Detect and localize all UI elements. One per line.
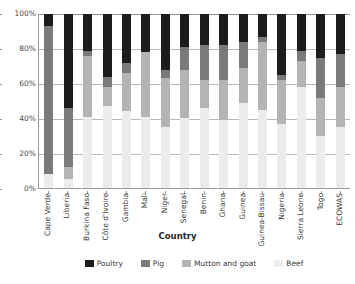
- stacked-bar[interactable]: [180, 14, 189, 188]
- bar-segment-mutton-and-goat: [258, 42, 267, 110]
- bar-segment-beef: [277, 124, 286, 188]
- bar-segment-beef: [336, 127, 345, 188]
- y-axis-tick-mark: [0, 49, 2, 50]
- legend-swatch-icon: [182, 260, 191, 267]
- bar-segment-poultry: [180, 14, 189, 47]
- bar-segment-poultry: [297, 14, 306, 51]
- legend-item[interactable]: Poultry: [85, 259, 123, 268]
- x-axis-tick-label: Benin: [200, 193, 208, 214]
- legend-item[interactable]: Mutton and goat: [182, 259, 256, 268]
- bar-segment-pig: [64, 108, 73, 167]
- legend-label: Pig: [153, 259, 164, 268]
- bar-segment-beef: [83, 117, 92, 188]
- stacked-bar[interactable]: [219, 14, 228, 188]
- bar-segment-poultry: [258, 14, 267, 37]
- x-axis-tick-label: Guinea: [239, 193, 247, 220]
- legend-item[interactable]: Beef: [274, 259, 303, 268]
- legend-item[interactable]: Pig: [141, 259, 164, 268]
- y-axis-tick-mark: [0, 84, 2, 85]
- chart-legend: PoultryPigMutton and goatBeef: [38, 259, 350, 268]
- x-axis-tick-label: Cape Verde: [44, 193, 52, 236]
- bar-segment-poultry: [219, 14, 228, 45]
- bar-slot: [117, 14, 136, 188]
- stacked-bar[interactable]: [200, 14, 209, 188]
- bar-slot: [136, 14, 155, 188]
- stacked-bar[interactable]: [141, 14, 150, 188]
- bar-segment-mutton-and-goat: [200, 80, 209, 108]
- stacked-bar[interactable]: [83, 14, 92, 188]
- bar-slot: [97, 14, 116, 188]
- bar-segment-poultry: [200, 14, 209, 45]
- x-axis-tick-label: Ghana: [219, 193, 227, 218]
- y-axis-tick-label: 80%: [2, 45, 36, 53]
- bar-segment-poultry: [44, 14, 53, 26]
- bar-segment-pig: [219, 45, 228, 80]
- bar-segment-poultry: [336, 14, 345, 54]
- bar-segment-pig: [200, 45, 209, 80]
- bar-group: [39, 14, 350, 188]
- bar-segment-beef: [258, 110, 267, 188]
- bar-slot: [233, 14, 252, 188]
- bar-segment-beef: [64, 179, 73, 188]
- stacked-bar[interactable]: [161, 14, 170, 188]
- bar-segment-pig: [122, 63, 131, 73]
- bar-segment-pig: [44, 26, 53, 174]
- bar-segment-mutton-and-goat: [122, 73, 131, 111]
- x-axis-tick-label: Mali: [141, 193, 149, 208]
- bar-segment-beef: [239, 103, 248, 188]
- y-axis-tick-label: 60%: [2, 80, 36, 88]
- stacked-bar[interactable]: [258, 14, 267, 188]
- bar-segment-poultry: [277, 14, 286, 75]
- bar-segment-mutton-and-goat: [180, 70, 189, 119]
- x-axis-tick-label: Nigeria: [278, 193, 286, 220]
- x-axis-tick-label: Liberia: [63, 193, 71, 218]
- stacked-bar[interactable]: [122, 14, 131, 188]
- bar-segment-pig: [316, 58, 325, 98]
- legend-swatch-icon: [274, 260, 283, 267]
- stacked-bar[interactable]: [297, 14, 306, 188]
- stacked-bar[interactable]: [103, 14, 112, 188]
- bar-segment-poultry: [161, 14, 170, 70]
- bar-slot: [58, 14, 77, 188]
- bar-segment-poultry: [239, 14, 248, 42]
- stacked-bar-chart: 0%20%40%60%80%100% Cape VerdeLiberiaBurk…: [0, 0, 355, 284]
- y-axis-tick-label: 0%: [2, 185, 36, 193]
- bar-segment-pig: [239, 42, 248, 68]
- x-axis-tick-label: Niger: [161, 193, 169, 213]
- bar-slot: [253, 14, 272, 188]
- bar-segment-poultry: [316, 14, 325, 58]
- y-axis-tick-mark: [0, 14, 2, 15]
- stacked-bar[interactable]: [336, 14, 345, 188]
- bar-segment-mutton-and-goat: [239, 68, 248, 103]
- legend-label: Beef: [286, 259, 303, 268]
- bar-segment-beef: [122, 111, 131, 188]
- stacked-bar[interactable]: [44, 14, 53, 188]
- stacked-bar[interactable]: [64, 14, 73, 188]
- legend-swatch-icon: [85, 260, 94, 267]
- bar-segment-pig: [161, 70, 170, 79]
- stacked-bar[interactable]: [277, 14, 286, 188]
- stacked-bar[interactable]: [316, 14, 325, 188]
- bar-segment-mutton-and-goat: [316, 98, 325, 136]
- y-axis-tick-mark: [0, 154, 2, 155]
- bar-slot: [39, 14, 58, 188]
- bar-segment-beef: [297, 87, 306, 188]
- bar-segment-beef: [316, 136, 325, 188]
- bar-segment-poultry: [141, 14, 150, 52]
- bar-segment-pig: [180, 47, 189, 70]
- plot-area: [38, 14, 350, 189]
- bar-segment-pig: [297, 51, 306, 61]
- bar-segment-beef: [44, 174, 53, 188]
- legend-label: Mutton and goat: [194, 259, 256, 268]
- bar-segment-poultry: [122, 14, 131, 63]
- bar-segment-mutton-and-goat: [336, 87, 345, 127]
- bar-segment-mutton-and-goat: [83, 56, 92, 117]
- bar-segment-mutton-and-goat: [161, 78, 170, 127]
- bar-segment-mutton-and-goat: [103, 87, 112, 106]
- bar-slot: [272, 14, 291, 188]
- stacked-bar[interactable]: [239, 14, 248, 188]
- bar-slot: [175, 14, 194, 188]
- x-axis-tick-label: Gambia: [122, 193, 130, 222]
- bar-segment-beef: [180, 118, 189, 188]
- x-axis-title: Country: [0, 231, 355, 241]
